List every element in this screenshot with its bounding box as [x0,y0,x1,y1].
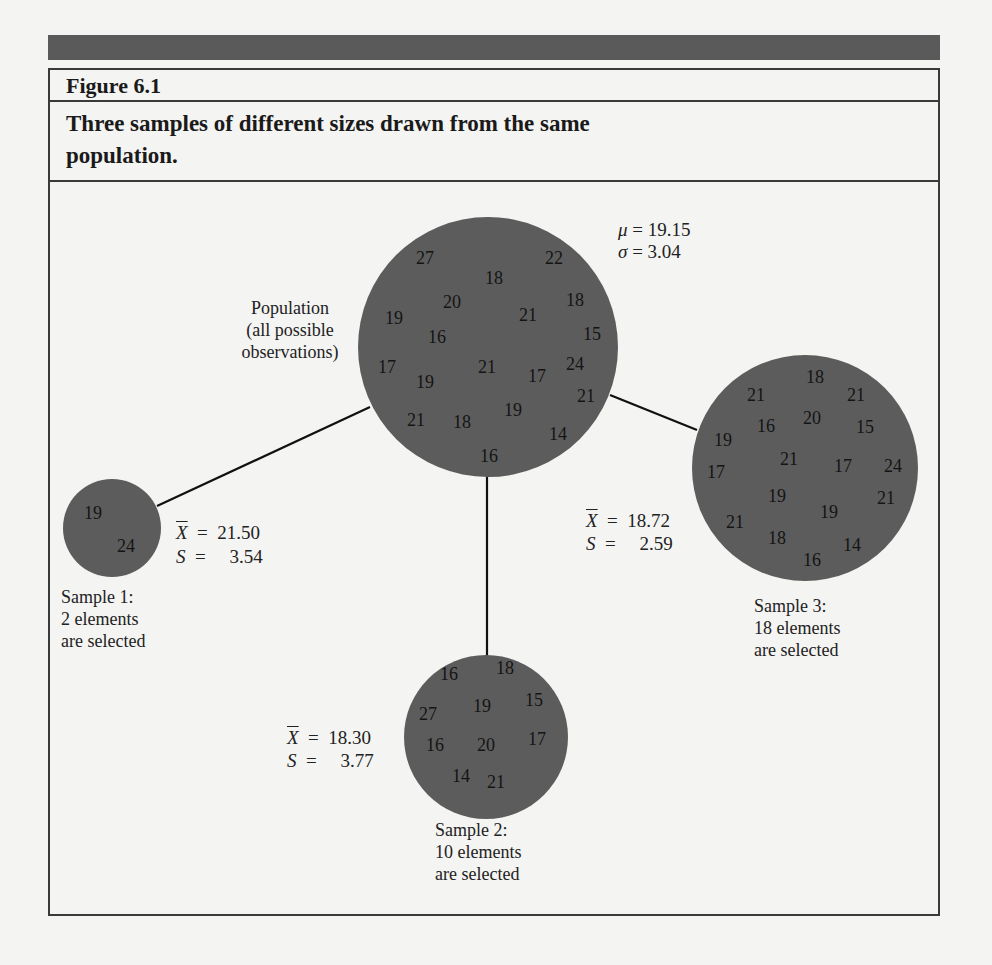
value: 19 [768,486,786,506]
value: 15 [525,690,543,710]
value: 17 [707,462,725,482]
value: 21 [487,772,505,792]
value: 21 [577,386,595,406]
sample-1-circle [63,479,161,577]
s-value: 2.59 [639,533,672,554]
value: 20 [477,735,495,755]
sample-1-sd: S = 3.54 [176,546,263,568]
mu-value: 19.15 [648,219,691,240]
value: 17 [528,366,546,386]
value: 16 [803,550,821,570]
sample-2-mean: X = 18.30 [287,727,371,749]
population-label-line: observations) [215,341,365,363]
value: 21 [478,357,496,377]
value: 24 [566,354,584,374]
value: 21 [519,305,537,325]
population-circle [358,217,618,477]
s-symbol: S [176,546,186,567]
value: 18 [768,528,786,548]
equals-sign: = [195,546,206,567]
sample-label-line: Sample 1: [61,586,145,608]
s-symbol: S [287,750,297,771]
value: 18 [453,412,471,432]
value: 19 [473,696,491,716]
xbar-value: 21.50 [217,522,260,543]
s-value: 3.77 [340,750,373,771]
equals-sign: = [632,219,643,240]
value: 14 [549,424,567,444]
population-label-line: Population [215,297,365,319]
value: 18 [806,367,824,387]
value: 27 [416,248,434,268]
mu-symbol: μ [618,219,628,240]
value: 24 [884,456,902,476]
sample-3-sd: S = 2.59 [586,533,673,555]
value: 17 [378,357,396,377]
value: 22 [545,248,563,268]
xbar-symbol: X [287,727,299,748]
value: 27 [419,704,437,724]
value: 21 [747,385,765,405]
value: 21 [847,385,865,405]
equals-sign: = [308,727,319,748]
population-sd: σ = 3.04 [618,241,681,263]
sample-label-line: 2 elements [61,608,145,630]
xbar-value: 18.30 [328,727,371,748]
population-label-line: (all possible [215,319,365,341]
equals-sign: = [605,533,616,554]
value: 19 [84,503,102,523]
sample-label-line: Sample 3: [754,595,840,617]
value: 18 [496,658,514,678]
xbar-value: 18.72 [627,510,670,531]
value: 19 [416,372,434,392]
s-symbol: S [586,533,596,554]
s-value: 3.54 [229,546,262,567]
population-mean: μ = 19.15 [618,219,691,241]
sigma-symbol: σ [618,241,627,262]
value: 21 [877,488,895,508]
sample-2-sd: S = 3.77 [287,750,374,772]
sample-label-line: Sample 2: [435,819,521,841]
value: 21 [780,449,798,469]
sample-3-label: Sample 3: 18 elements are selected [754,595,840,661]
equals-sign: = [632,241,643,262]
sample-2-label: Sample 2: 10 elements are selected [435,819,521,885]
equals-sign: = [607,510,618,531]
value: 20 [803,408,821,428]
value: 15 [856,417,874,437]
value: 19 [504,400,522,420]
sample-1-mean: X = 21.50 [176,522,260,544]
value: 14 [843,535,861,555]
sample-3-mean: X = 18.72 [586,510,670,532]
value: 21 [407,410,425,430]
value: 16 [757,416,775,436]
value: 17 [834,456,852,476]
value: 19 [385,308,403,328]
value: 16 [428,327,446,347]
equals-sign: = [306,750,317,771]
value: 16 [426,735,444,755]
value: 17 [528,729,546,749]
equals-sign: = [197,522,208,543]
sigma-value: 3.04 [648,241,681,262]
connector-sample-1 [157,407,370,506]
value: 18 [485,268,503,288]
value: 19 [714,430,732,450]
sample-label-line: are selected [435,863,521,885]
connector-sample-3 [610,395,697,430]
sample-1-label: Sample 1: 2 elements are selected [61,586,145,652]
xbar-symbol: X [176,522,188,543]
value: 15 [583,324,601,344]
sample-label-line: 18 elements [754,617,840,639]
value: 21 [726,512,744,532]
xbar-symbol: X [586,510,598,531]
sample-label-line: are selected [754,639,840,661]
value: 19 [820,502,838,522]
value: 14 [452,766,470,786]
value: 24 [117,536,135,556]
sample-label-line: 10 elements [435,841,521,863]
value: 20 [443,292,461,312]
value: 18 [566,290,584,310]
value: 16 [440,664,458,684]
value: 16 [480,446,498,466]
